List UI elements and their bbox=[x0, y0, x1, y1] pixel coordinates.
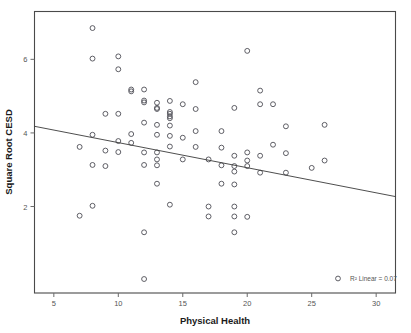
data-point bbox=[206, 204, 211, 209]
data-point bbox=[142, 120, 147, 125]
data-point bbox=[322, 158, 327, 163]
data-point bbox=[90, 163, 95, 168]
x-tick-label: 10 bbox=[114, 299, 122, 308]
data-point bbox=[90, 26, 95, 31]
y-axis-ticks: 246 bbox=[23, 55, 34, 211]
data-point bbox=[232, 230, 237, 235]
data-point bbox=[309, 165, 314, 170]
data-point bbox=[193, 107, 198, 112]
data-point bbox=[283, 170, 288, 175]
data-point bbox=[258, 153, 263, 158]
data-point bbox=[155, 132, 160, 137]
data-points bbox=[77, 26, 327, 282]
x-axis-title: Physical Health bbox=[180, 315, 250, 326]
data-point bbox=[116, 54, 121, 59]
data-point bbox=[155, 157, 160, 162]
data-point bbox=[180, 102, 185, 107]
data-point bbox=[103, 111, 108, 116]
x-tick-label: 20 bbox=[243, 299, 251, 308]
data-point bbox=[90, 132, 95, 137]
y-tick-label: 6 bbox=[23, 55, 27, 64]
data-point bbox=[232, 214, 237, 219]
y-tick-label: 4 bbox=[23, 129, 27, 138]
data-point bbox=[167, 144, 172, 149]
data-point bbox=[232, 164, 237, 169]
data-point bbox=[245, 158, 250, 163]
data-point bbox=[193, 144, 198, 149]
data-point bbox=[232, 204, 237, 209]
data-point bbox=[271, 142, 276, 147]
data-point bbox=[258, 88, 263, 93]
data-point bbox=[155, 100, 160, 105]
x-tick-label: 30 bbox=[372, 299, 380, 308]
data-point bbox=[167, 98, 172, 103]
data-point bbox=[142, 277, 147, 282]
y-axis-title: Square Root CESD bbox=[3, 109, 14, 195]
x-tick-label: 5 bbox=[52, 299, 56, 308]
data-point bbox=[77, 144, 82, 149]
data-point bbox=[155, 122, 160, 127]
data-point bbox=[322, 122, 327, 127]
data-point bbox=[180, 157, 185, 162]
data-point bbox=[180, 135, 185, 140]
chart-canvas: 246 51015202530 R² Linear = 0.07 Physica… bbox=[0, 0, 411, 333]
data-point bbox=[206, 214, 211, 219]
data-point bbox=[142, 87, 147, 92]
chart-legend: R² Linear = 0.07 bbox=[336, 275, 398, 282]
x-tick-label: 25 bbox=[308, 299, 316, 308]
data-point bbox=[116, 150, 121, 155]
data-point bbox=[155, 163, 160, 168]
y-tick-label: 2 bbox=[23, 203, 27, 212]
data-point bbox=[219, 181, 224, 186]
data-point bbox=[167, 123, 172, 128]
data-point bbox=[103, 164, 108, 169]
data-point bbox=[142, 150, 147, 155]
data-point bbox=[129, 132, 134, 137]
data-point bbox=[219, 163, 224, 168]
data-point bbox=[77, 213, 82, 218]
data-point bbox=[232, 153, 237, 158]
r-squared-annotation: R² Linear = 0.07 bbox=[350, 275, 397, 282]
legend-marker-icon bbox=[336, 276, 341, 281]
data-point bbox=[155, 181, 160, 186]
data-point bbox=[245, 150, 250, 155]
linear-fit-line bbox=[35, 126, 396, 196]
data-point bbox=[219, 145, 224, 150]
data-point bbox=[90, 56, 95, 61]
data-point bbox=[90, 203, 95, 208]
data-point bbox=[245, 48, 250, 53]
data-point bbox=[232, 105, 237, 110]
data-point bbox=[142, 163, 147, 168]
scatter-chart: 246 51015202530 R² Linear = 0.07 Physica… bbox=[0, 0, 411, 333]
x-axis-ticks: 51015202530 bbox=[52, 293, 381, 308]
data-point bbox=[245, 214, 250, 219]
data-point bbox=[142, 230, 147, 235]
data-point bbox=[258, 102, 263, 107]
regression-line bbox=[35, 126, 396, 196]
x-tick-label: 15 bbox=[179, 299, 187, 308]
data-point bbox=[271, 102, 276, 107]
data-point bbox=[283, 151, 288, 156]
data-point bbox=[167, 202, 172, 207]
data-point bbox=[116, 111, 121, 116]
data-point bbox=[232, 169, 237, 174]
plot-frame bbox=[35, 12, 396, 294]
data-point bbox=[116, 67, 121, 72]
data-point bbox=[193, 80, 198, 85]
data-point bbox=[103, 148, 108, 153]
data-point bbox=[219, 129, 224, 134]
data-point bbox=[283, 124, 288, 129]
data-point bbox=[167, 133, 172, 138]
data-point bbox=[232, 182, 237, 187]
data-point bbox=[193, 129, 198, 134]
